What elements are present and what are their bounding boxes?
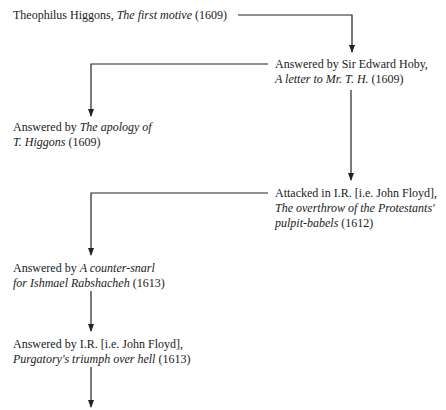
- plain-text: Theophilus Higgons,: [13, 8, 117, 22]
- title-text: T. Higgons: [13, 135, 65, 149]
- plain-text: (1613): [130, 276, 165, 290]
- node-text-line: Answered by Sir Edward Hoby,: [275, 57, 428, 72]
- title-text: A letter to Mr. T. H.: [275, 72, 369, 86]
- plain-text: Answered by I.R. [i.e. John Floyd],: [13, 337, 183, 351]
- edge-n4-n5: [91, 193, 268, 255]
- node-text-line: Answered by The apology of: [13, 120, 152, 135]
- edge-n1-n2: [238, 15, 352, 52]
- plain-text: Attacked in I.R. [i.e. John Floyd],: [275, 186, 437, 200]
- title-text: The overthrow of the Protestants': [275, 201, 435, 215]
- title-text: A counter-snarl: [80, 261, 155, 275]
- node-text-line: Theophilus Higgons, The first motive (16…: [13, 8, 227, 23]
- node-apology-of-higgons: Answered by The apology ofT. Higgons (16…: [13, 120, 152, 150]
- node-counter-snarl: Answered by A counter-snarlfor Ishmael R…: [13, 261, 165, 291]
- plain-text: (1609): [65, 135, 100, 149]
- node-text-line: for Ishmael Rabshacheh (1613): [13, 276, 165, 291]
- arrowhead-icon: [88, 248, 94, 256]
- node-text-line: Answered by I.R. [i.e. John Floyd],: [13, 337, 190, 352]
- plain-text: (1609): [192, 8, 227, 22]
- title-text: Purgatory's triumph over hell: [13, 352, 155, 366]
- plain-text: Answered by: [13, 120, 80, 134]
- node-letter-to-mr-th: Answered by Sir Edward Hoby,A letter to …: [275, 57, 428, 87]
- title-text: The first motive: [117, 8, 192, 22]
- node-text-line: pulpit-babels (1612): [275, 216, 437, 231]
- arrowhead-icon: [88, 400, 94, 408]
- node-purgatorys-triumph: Answered by I.R. [i.e. John Floyd],Purga…: [13, 337, 190, 367]
- node-text-line: A letter to Mr. T. H. (1609): [275, 72, 428, 87]
- title-text: The apology of: [80, 120, 152, 134]
- node-text-line: Purgatory's triumph over hell (1613): [13, 352, 190, 367]
- arrowhead-icon: [88, 109, 94, 117]
- title-text: pulpit-babels: [275, 216, 338, 230]
- arrowhead-icon: [348, 173, 354, 181]
- plain-text: (1609): [369, 72, 404, 86]
- node-overthrow-pulpit-babels: Attacked in I.R. [i.e. John Floyd],The o…: [275, 186, 437, 231]
- node-text-line: Answered by A counter-snarl: [13, 261, 165, 276]
- node-text-line: T. Higgons (1609): [13, 135, 152, 150]
- plain-text: Answered by: [13, 261, 80, 275]
- arrowhead-icon: [349, 45, 355, 53]
- node-text-line: Attacked in I.R. [i.e. John Floyd],: [275, 186, 437, 201]
- plain-text: Answered by Sir Edward Hoby,: [275, 57, 428, 71]
- edge-n2-n3: [91, 64, 268, 116]
- title-text: for Ishmael Rabshacheh: [13, 276, 130, 290]
- plain-text: (1613): [155, 352, 190, 366]
- plain-text: (1612): [338, 216, 373, 230]
- node-first-motive: Theophilus Higgons, The first motive (16…: [13, 8, 227, 23]
- arrowhead-icon: [88, 324, 94, 332]
- node-text-line: The overthrow of the Protestants': [275, 201, 437, 216]
